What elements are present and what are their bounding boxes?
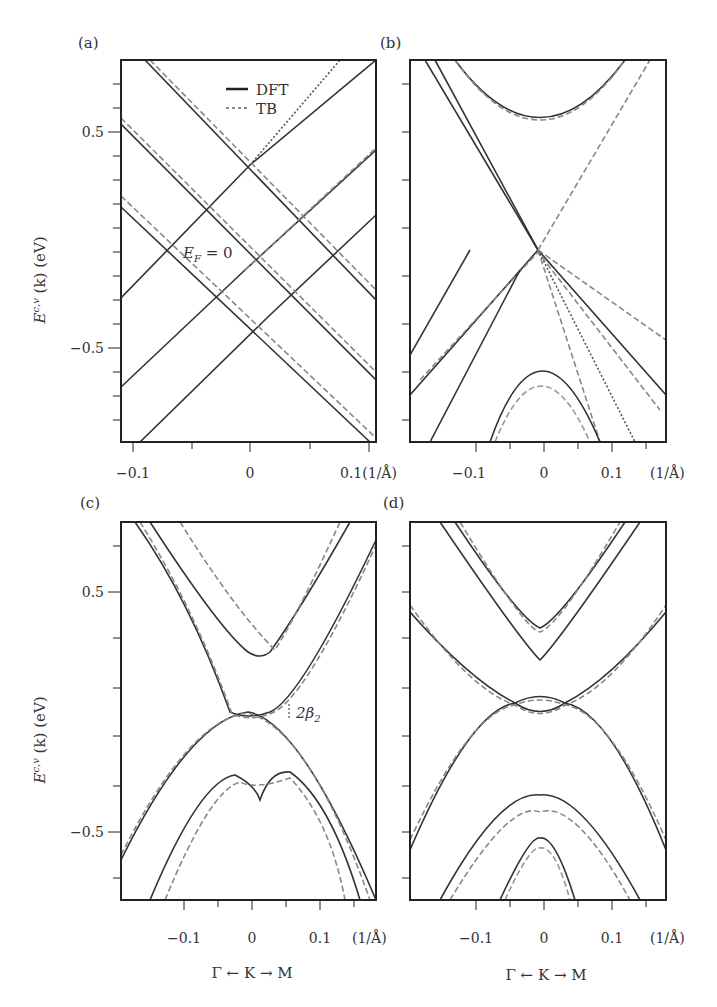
panel-b: −0.1 0 0.1 (1/Å) <box>402 60 685 481</box>
band-structure-figure: (a) (b) (c) (d) <box>0 0 717 1007</box>
y-axis-label-top: Ec,v (k) (eV) <box>30 236 49 324</box>
ytick-0.5: 0.5 <box>82 124 104 140</box>
xtick--0.1: −0.1 <box>459 930 493 946</box>
panel-label-c: (c) <box>80 494 100 512</box>
xtick-unit: (1/Å) <box>650 929 685 946</box>
legend-tb: TB <box>256 100 277 118</box>
xtick--0.1: −0.1 <box>452 465 486 481</box>
panel-label-d: (d) <box>383 494 404 512</box>
xtick-0: 0 <box>540 930 549 946</box>
xtick-0.1: 0.1 <box>601 930 623 946</box>
xtick--0.1: −0.1 <box>167 930 201 946</box>
ytick-0.5: 0.5 <box>82 584 104 600</box>
xtick-0: 0 <box>246 465 255 481</box>
xtick-0.1: 0.1 <box>309 930 331 946</box>
xtick-unit: (1/Å) <box>650 464 685 481</box>
y-axis-label-bottom: Ec,v (k) (eV) <box>30 696 49 784</box>
beta-annotation: 2β2 <box>295 704 321 724</box>
ytick--0.5: −0.5 <box>70 824 104 840</box>
k-path-label: Γ ← K → M <box>211 964 292 982</box>
fermi-annotation: EF = 0 <box>182 244 233 264</box>
panel-label-a: (a) <box>78 34 99 52</box>
panel-c: 0.5 −0.5 −0.1 0 0.1 (1/Å) Γ ← K → M 2β2 <box>70 522 387 982</box>
xtick-0.1: 0.1 <box>601 465 623 481</box>
xtick-0: 0 <box>540 465 549 481</box>
panel-label-b: (b) <box>380 34 401 52</box>
panel-a: 0.5 −0.5 −0.1 0 0.1(1/Å) DFT TB EF = 0 <box>70 60 397 481</box>
panel-d: −0.1 0 0.1 (1/Å) Γ ← K → M <box>402 522 685 984</box>
ytick--0.5: −0.5 <box>70 340 104 356</box>
xtick-0.1-unit: 0.1(1/Å) <box>340 464 397 481</box>
xtick-unit: (1/Å) <box>352 929 387 946</box>
xtick-0: 0 <box>248 930 257 946</box>
legend-dft: DFT <box>256 81 288 99</box>
k-path-label: Γ ← K → M <box>505 966 586 984</box>
xtick--0.1: −0.1 <box>116 465 150 481</box>
